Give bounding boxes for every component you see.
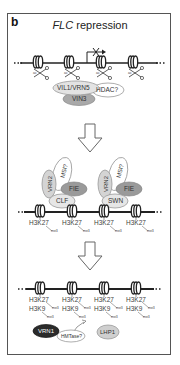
- methylation-sub-label: me3: [116, 307, 123, 311]
- vin3-label: VIN3: [72, 96, 86, 103]
- down-arrow-icon: [78, 124, 102, 152]
- nucleosome-icon: [131, 282, 140, 294]
- histone-mark-label: H3K9: [94, 306, 110, 313]
- methylation-sub-label: me3: [111, 316, 118, 320]
- nucleosome-icon: [35, 282, 44, 294]
- nucleosome-icon: [67, 205, 76, 217]
- methylation-sub-label: me3: [83, 230, 90, 234]
- nucleosome-icon: [99, 205, 108, 217]
- nucleosome-icon: [131, 205, 140, 217]
- methylation-sub-label: me3: [84, 307, 91, 311]
- methylation-sub-label: me3: [115, 230, 122, 234]
- fie-label: FIE: [124, 186, 134, 193]
- acetyl-label: ac: [128, 72, 132, 76]
- acetyl-label: ac: [96, 72, 100, 76]
- methylation-sub-label: me3: [47, 316, 54, 320]
- methylation-sub-label: me3: [143, 316, 150, 320]
- histone-mark-label: H3K27: [94, 297, 114, 304]
- stage2-chromatin: [18, 205, 163, 231]
- histone-mark-label: H3K9: [62, 306, 78, 313]
- nucleosome-icon: [33, 56, 42, 68]
- histone-mark-label: H3K27: [29, 220, 49, 227]
- nucleosome-icon: [128, 56, 137, 68]
- methylation-sub-label: me3: [52, 307, 59, 311]
- methylation-sub-label: me3: [148, 307, 155, 311]
- methylation-sub-label: me3: [51, 230, 58, 234]
- vrn2-label: VRN2: [47, 176, 53, 192]
- swn-label: SWN: [108, 198, 123, 205]
- clf-label: CLF: [56, 198, 68, 205]
- nucleosome-icon: [64, 56, 73, 68]
- hdac-label: HDAC?: [96, 87, 118, 94]
- acetyl-label: ac: [64, 72, 68, 76]
- acetyl-label: ac: [33, 72, 37, 76]
- lhp1-label: LHP1: [100, 329, 115, 335]
- histone-mark-label: H3K27: [62, 220, 82, 227]
- histone-mark-label: H3K27: [29, 297, 49, 304]
- histone-mark-label: H3K9: [29, 306, 45, 313]
- histone-mark-label: H3K27: [126, 297, 146, 304]
- histone-mark-label: H3K27: [94, 220, 114, 227]
- hmtase-label: HMTase?: [61, 334, 82, 339]
- fie-label: FIE: [69, 186, 79, 193]
- methylation-sub-label: me3: [147, 230, 154, 234]
- histone-mark-label: H3K27: [126, 220, 146, 227]
- vrn1-label: VRN1: [38, 328, 54, 334]
- nucleosome-icon: [35, 205, 44, 217]
- methylation-sub-label: me3: [79, 316, 86, 320]
- nucleosome-icon: [99, 282, 108, 294]
- histone-mark-label: H3K27: [62, 297, 82, 304]
- vrn2-label: VRN2: [103, 176, 109, 192]
- nucleosome-icon: [96, 56, 105, 68]
- nucleosome-icon: [67, 282, 76, 294]
- down-arrow-icon: [78, 242, 102, 270]
- vil1-vrn5-label: VIL1/VRN5: [57, 85, 90, 92]
- histone-mark-label: H3K9: [126, 306, 142, 313]
